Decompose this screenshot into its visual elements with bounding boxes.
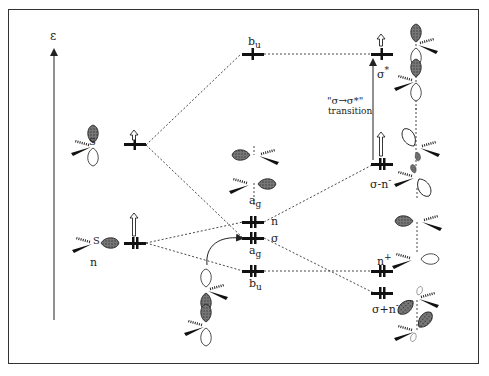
label-sigma-minus-n: σ-n- xyxy=(370,176,391,190)
energy-levels xyxy=(124,48,393,299)
transition-label-line1: "σ→σ*" xyxy=(327,96,363,106)
axis-label: ε xyxy=(50,30,56,42)
orbital-n-plus-top xyxy=(395,216,442,231)
orbital-sigma-minus-n-top xyxy=(399,126,440,161)
label-ag-top: ag xyxy=(249,195,261,209)
atom-label: S xyxy=(93,236,100,246)
orbital-sigma-bottom xyxy=(184,304,211,346)
label-n-left: n xyxy=(90,257,97,268)
label-sigma-plus-n: σ+n- xyxy=(372,301,399,315)
label-ag-bottom: ag xyxy=(249,245,261,259)
label-bu-bottom: bu xyxy=(249,278,262,292)
atom-label: S xyxy=(89,137,96,147)
curved-arrow xyxy=(207,238,240,265)
orbital-sigma-minus-n-bottom xyxy=(394,164,434,199)
orbital-ag-n-top xyxy=(232,150,279,165)
transition-label-line2: transition xyxy=(328,107,372,116)
mo-diagram-canvas xyxy=(0,0,489,376)
label-sigma-star: σ* xyxy=(377,66,389,80)
label-n-mid: n xyxy=(271,216,278,227)
label-n-plus: n+ xyxy=(377,253,392,267)
label-bu-top: bu xyxy=(248,36,261,50)
orbital-ag-n-bottom xyxy=(229,179,276,194)
orbital-n-plus-bottom xyxy=(392,254,439,269)
label-sigma-mid: σ xyxy=(271,233,279,244)
orbital-sigma-star-bottom xyxy=(394,59,421,101)
